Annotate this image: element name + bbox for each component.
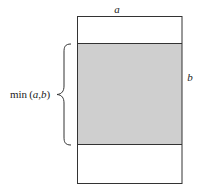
label-b: b [187, 71, 193, 83]
diagram-canvas: a b min(a,b) [0, 0, 198, 189]
label-a: a [114, 3, 120, 15]
label-min-ab: min(a,b) [10, 88, 51, 101]
min-text: min [10, 88, 28, 100]
curly-brace [57, 44, 71, 145]
shaded-square [78, 44, 183, 145]
